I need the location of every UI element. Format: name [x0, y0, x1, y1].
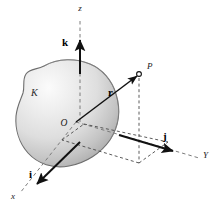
axis-label-z: z — [77, 3, 82, 13]
vector-label-i: i — [29, 168, 32, 180]
vector-label-j: j — [162, 130, 167, 142]
axis-label-y: Y — [203, 150, 209, 160]
point-label-p: P — [146, 61, 153, 71]
point-marker-p — [137, 72, 142, 77]
region-label-k: K — [30, 87, 39, 98]
vector-diagram-figure: K z Y x r P O k — [0, 0, 216, 206]
origin-label-o: O — [61, 118, 68, 128]
diagram-canvas: K z Y x r P O k — [0, 0, 216, 206]
region-k-shape — [16, 60, 119, 167]
axis-label-x: x — [10, 191, 15, 201]
vector-label-k: k — [62, 36, 69, 48]
vector-label-r: r — [108, 86, 113, 98]
